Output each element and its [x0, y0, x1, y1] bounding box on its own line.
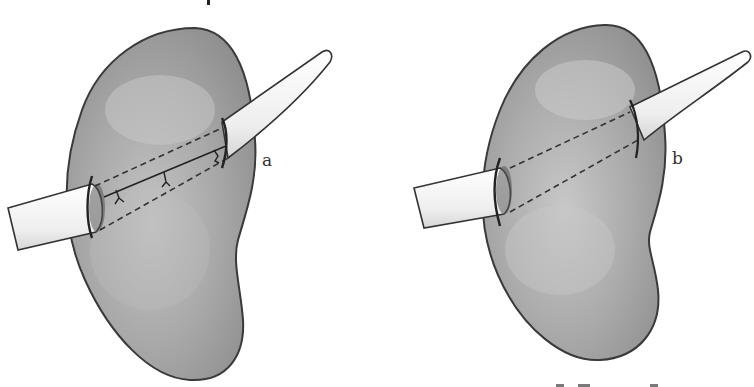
panel-b: b: [400, 0, 754, 387]
kidney-with-tube-illustration: [400, 0, 754, 387]
panel-label-b: b: [672, 148, 683, 168]
panel-label-a: a: [262, 150, 272, 170]
panel-a: a: [0, 0, 380, 387]
kidney-with-sutured-tube-illustration: [0, 0, 380, 387]
surgical-illustration: a: [0, 0, 754, 387]
